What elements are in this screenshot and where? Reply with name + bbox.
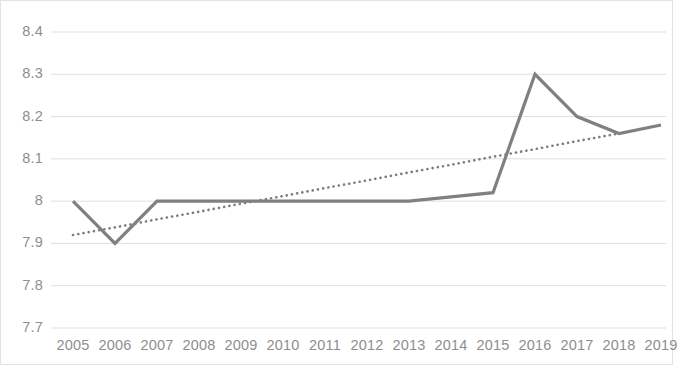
x-axis-tick-label: 2005 — [53, 337, 93, 353]
chart-plot-area — [1, 1, 674, 365]
y-axis-tick-label: 8.4 — [1, 23, 43, 39]
x-axis-tick-label: 2006 — [95, 337, 135, 353]
y-axis-tick-label: 8.3 — [1, 65, 43, 81]
x-axis-tick-label: 2016 — [515, 337, 555, 353]
x-axis-tick-label: 2009 — [221, 337, 261, 353]
x-axis-tick-label: 2012 — [347, 337, 387, 353]
x-axis-tick-label: 2014 — [431, 337, 471, 353]
y-axis-tick-label: 8 — [1, 192, 43, 208]
x-axis-tick-label: 2008 — [179, 337, 219, 353]
trendline-series — [73, 133, 619, 234]
y-axis-tick-label: 8.2 — [1, 108, 43, 124]
y-axis-tick-label: 7.8 — [1, 277, 43, 293]
y-axis-tick-label: 8.1 — [1, 150, 43, 166]
trendline-path — [73, 133, 619, 234]
x-axis-tick-label: 2017 — [557, 337, 597, 353]
x-axis-tick-label: 2018 — [599, 337, 639, 353]
y-axis-tick-label: 7.7 — [1, 319, 43, 335]
y-axis-tick-label: 7.9 — [1, 234, 43, 250]
x-axis-tick-label: 2011 — [305, 337, 345, 353]
x-axis-tick-label: 2013 — [389, 337, 429, 353]
x-axis-tick-label: 2007 — [137, 337, 177, 353]
gridlines — [51, 32, 666, 328]
x-axis-tick-label: 2019 — [641, 337, 681, 353]
x-axis-tick-label: 2010 — [263, 337, 303, 353]
x-axis-tick-label: 2015 — [473, 337, 513, 353]
